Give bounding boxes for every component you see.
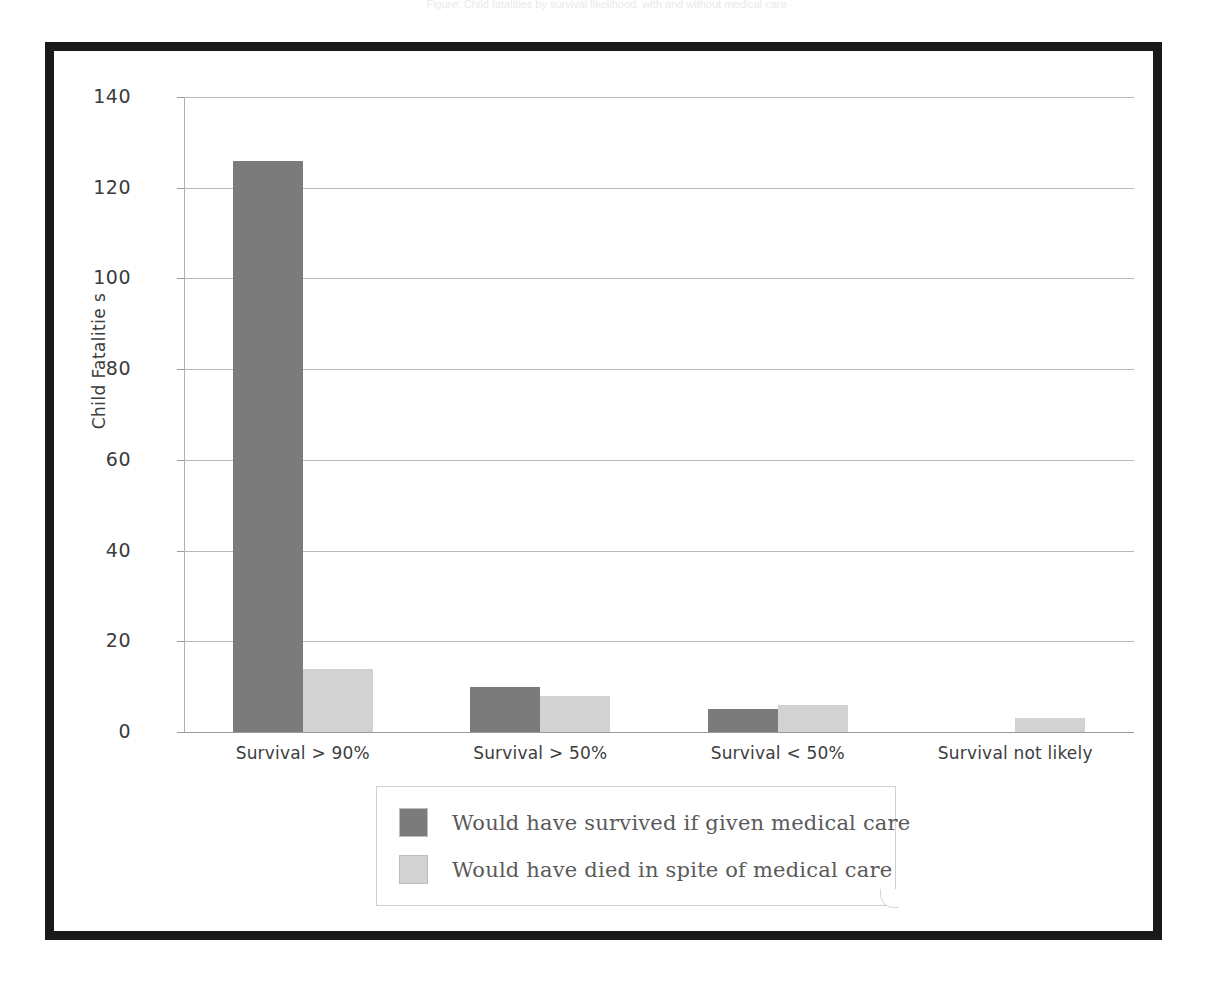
- legend-swatch-icon-1: [399, 855, 428, 884]
- legend-swatch-icon-0: [399, 808, 428, 837]
- y-tick-mark-40: [177, 551, 184, 552]
- chart-frame: 020406080100120140 Child Fatalitie s Sur…: [45, 42, 1162, 940]
- bar[interactable]: [540, 696, 610, 732]
- legend-label-1: Would have died in spite of medical care: [452, 858, 892, 882]
- bar[interactable]: [470, 687, 540, 732]
- legend-item-0[interactable]: Would have survived if given medical car…: [399, 808, 910, 837]
- top-caption-strip: Figure: Child fatalities by survival lik…: [0, 0, 1213, 14]
- y-tick-label-0: 0: [71, 720, 131, 742]
- y-tick-mark-80: [177, 369, 184, 370]
- bars-layer: [184, 97, 1134, 732]
- legend: Would have survived if given medical car…: [376, 786, 896, 906]
- x-tick-label: Survival > 50%: [430, 743, 650, 763]
- bar-group: [708, 97, 848, 732]
- gridline-0: [184, 732, 1134, 733]
- legend-label-0: Would have survived if given medical car…: [452, 811, 910, 835]
- bar[interactable]: [778, 705, 848, 732]
- x-tick-label: Survival not likely: [905, 743, 1125, 763]
- bar-group: [470, 97, 610, 732]
- y-tick-mark-140: [177, 97, 184, 98]
- x-tick-label: Survival < 50%: [668, 743, 888, 763]
- y-tick-label-40: 40: [71, 539, 131, 561]
- chart-canvas: 020406080100120140 Child Fatalitie s Sur…: [54, 51, 1153, 931]
- bar[interactable]: [303, 669, 373, 733]
- y-tick-label-120: 120: [71, 176, 131, 198]
- bar[interactable]: [233, 161, 303, 733]
- bar[interactable]: [1015, 718, 1085, 732]
- x-tick-label: Survival > 90%: [193, 743, 413, 763]
- y-tick-mark-20: [177, 641, 184, 642]
- bar-group: [945, 97, 1085, 732]
- bar-group: [233, 97, 373, 732]
- legend-item-1[interactable]: Would have died in spite of medical care: [399, 855, 892, 884]
- bar[interactable]: [708, 709, 778, 732]
- y-tick-label-20: 20: [71, 629, 131, 651]
- y-tick-mark-100: [177, 278, 184, 279]
- y-tick-mark-0: [177, 732, 184, 733]
- y-tick-label-140: 140: [71, 85, 131, 107]
- y-tick-mark-120: [177, 188, 184, 189]
- y-tick-mark-60: [177, 460, 184, 461]
- y-axis-title: Child Fatalitie s: [89, 241, 109, 481]
